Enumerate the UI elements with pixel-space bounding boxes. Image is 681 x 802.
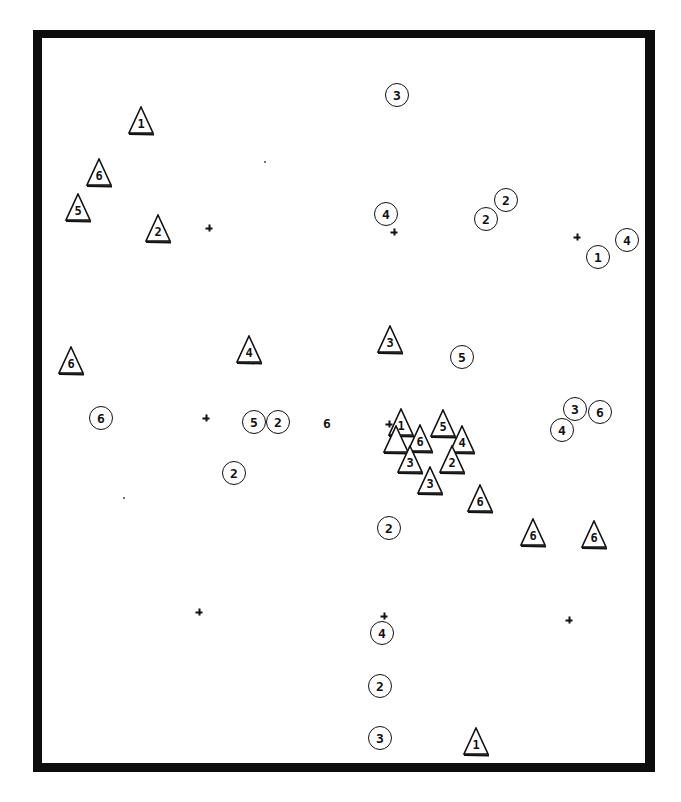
triangle-label: 6	[85, 169, 113, 183]
triangle-label: 2	[144, 225, 172, 239]
plot-frame	[33, 30, 655, 772]
plus-icon	[203, 415, 210, 422]
triangle-marker: 4	[235, 335, 263, 365]
plus-icon	[196, 609, 203, 616]
triangle-label: 6	[57, 357, 85, 371]
triangle-marker: 6	[466, 484, 494, 514]
triangle-marker: 6	[580, 520, 608, 550]
plus-icon	[381, 613, 388, 620]
circle-marker: 4	[370, 621, 394, 645]
circle-marker: 1	[586, 245, 610, 269]
triangle-marker: 1	[462, 727, 490, 757]
plus-icon	[386, 421, 393, 428]
triangle-label: 3	[376, 336, 404, 350]
plus-icon	[206, 225, 213, 232]
circle-marker: 2	[377, 516, 401, 540]
circle-marker: 2	[368, 674, 392, 698]
circle-marker: 2	[494, 188, 518, 212]
speck-dot	[264, 161, 266, 163]
triangle-label: 5	[64, 204, 92, 218]
circle-marker: 2	[266, 410, 290, 434]
circle-marker: 4	[374, 202, 398, 226]
speck-dot	[123, 497, 125, 499]
circle-marker: 6	[89, 406, 113, 430]
circle-marker: 5	[242, 410, 266, 434]
circle-marker: 2	[474, 207, 498, 231]
plus-icon	[574, 234, 581, 241]
triangle-label: 6	[580, 531, 608, 545]
triangle-marker: 5	[64, 193, 92, 223]
plus-icon	[391, 229, 398, 236]
triangle-marker: 2	[144, 214, 172, 244]
circle-marker: 3	[368, 726, 392, 750]
triangle-marker: 6	[519, 518, 547, 548]
triangle-label: 3	[416, 477, 444, 491]
circle-marker: 4	[550, 418, 574, 442]
plain-label: 6	[323, 416, 331, 431]
circle-marker: 4	[615, 228, 639, 252]
triangle-label: 4	[235, 346, 263, 360]
triangle-label: 1	[127, 117, 155, 131]
triangle-label: 1	[462, 738, 490, 752]
circle-marker: 5	[450, 345, 474, 369]
triangle-marker: 6	[57, 346, 85, 376]
circle-marker: 2	[222, 461, 246, 485]
plus-icon	[566, 617, 573, 624]
triangle-marker: 6	[85, 158, 113, 188]
triangle-marker: 3	[376, 325, 404, 355]
circle-marker: 6	[588, 400, 612, 424]
triangle-label: 6	[466, 495, 494, 509]
circle-marker: 3	[563, 397, 587, 421]
triangle-label: 6	[519, 529, 547, 543]
triangle-marker: 3	[416, 466, 444, 496]
triangle-marker: 1	[127, 106, 155, 136]
circle-marker: 3	[385, 83, 409, 107]
